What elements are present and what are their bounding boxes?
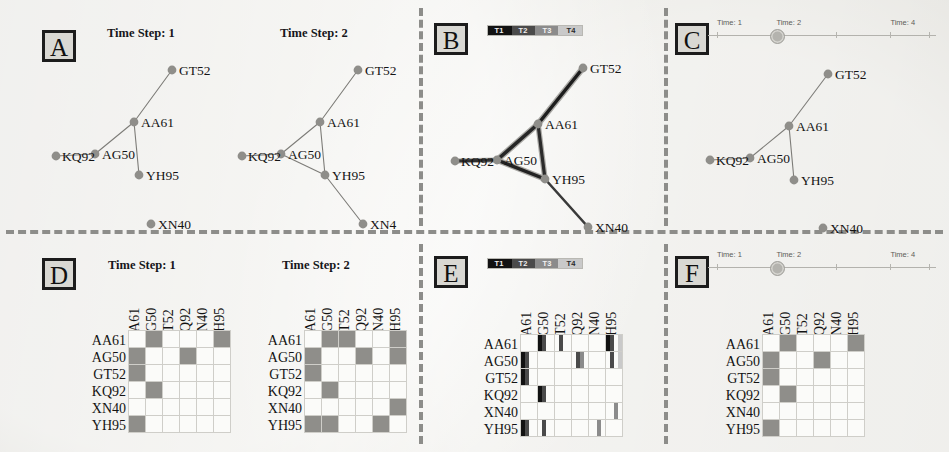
matrix-cell-KQ92-XN40[interactable] [373, 382, 390, 399]
matrix-cell-YH95-YH95[interactable] [848, 420, 865, 437]
matrix-cell-KQ92-AG50[interactable] [146, 382, 163, 399]
matrix-cell-AG50-AG50[interactable] [322, 348, 339, 365]
matrix-cell-XN40-XN40[interactable] [197, 399, 214, 416]
matrix-cell-GT52-YH95[interactable] [214, 365, 231, 382]
matrix-cell-KQ92-AA61[interactable] [305, 382, 322, 399]
matrix-cell-KQ92-GT52[interactable] [555, 386, 572, 403]
matrix-cell-AG50-YH95[interactable] [606, 352, 623, 369]
matrix-cell-KQ92-AG50[interactable] [780, 386, 797, 403]
matrix-cell-GT52-GT52[interactable] [339, 365, 356, 382]
node-AA61[interactable] [534, 120, 543, 129]
matrix-cell-AG50-KQ92[interactable] [572, 352, 589, 369]
node-XN40[interactable] [584, 223, 593, 232]
matrix-cell-YH95-AG50[interactable] [322, 416, 339, 433]
matrix-cell-YH95-YH95[interactable] [214, 416, 231, 433]
node-YH95[interactable] [321, 171, 330, 180]
matrix-cell-AA61-YH95[interactable] [848, 335, 865, 352]
matrix-cell-XN40-AG50[interactable] [780, 403, 797, 420]
time-slider-c[interactable]: Time: 1Time: 2Time: 4 [708, 18, 936, 46]
matrix-cell-KQ92-GT52[interactable] [163, 382, 180, 399]
matrix-cell-AG50-YH95[interactable] [848, 352, 865, 369]
matrix-cell-AG50-AA61[interactable] [763, 352, 780, 369]
network-timestep2[interactable]: GT52AA61AG50KQ92YH95XN4 [232, 48, 407, 243]
matrix-cell-GT52-AA61[interactable] [763, 369, 780, 386]
matrix-superimposed[interactable]: AA61AG50GT52KQ92XN40YH95AA61AG50GT52KQ92… [470, 280, 630, 448]
matrix-cell-GT52-XN40[interactable] [831, 369, 848, 386]
matrix-cell-GT52-GT52[interactable] [555, 369, 572, 386]
matrix-cell-GT52-AG50[interactable] [322, 365, 339, 382]
matrix-cell-AG50-YH95[interactable] [390, 348, 407, 365]
matrix-cell-AA61-YH95[interactable] [606, 335, 623, 352]
matrix-cell-AG50-KQ92[interactable] [180, 348, 197, 365]
node-KQ92[interactable] [706, 156, 715, 165]
matrix-cell-XN40-AA61[interactable] [521, 403, 538, 420]
matrix-cell-YH95-XN40[interactable] [197, 416, 214, 433]
matrix-cell-GT52-AA61[interactable] [129, 365, 146, 382]
matrix-cell-AA61-XN40[interactable] [589, 335, 606, 352]
matrix-cell-AA61-XN40[interactable] [373, 331, 390, 348]
matrix-cell-XN40-YH95[interactable] [390, 399, 407, 416]
matrix-cell-KQ92-AG50[interactable] [322, 382, 339, 399]
matrix-cell-KQ92-XN40[interactable] [589, 386, 606, 403]
matrix-cell-AG50-GT52[interactable] [339, 348, 356, 365]
matrix-cell-AA61-AG50[interactable] [538, 335, 555, 352]
matrix-cell-AG50-XN40[interactable] [831, 352, 848, 369]
matrix-cell-GT52-GT52[interactable] [797, 369, 814, 386]
matrix-cell-KQ92-YH95[interactable] [390, 382, 407, 399]
matrix-cell-YH95-AA61[interactable] [129, 416, 146, 433]
matrix-cell-GT52-AA61[interactable] [305, 365, 322, 382]
matrix-cell-AG50-XN40[interactable] [373, 348, 390, 365]
matrix-cell-KQ92-KQ92[interactable] [356, 382, 373, 399]
matrix-cell-XN40-AG50[interactable] [322, 399, 339, 416]
matrix-timestep2[interactable]: AA61AG50GT52KQ92XN40YH95AA61AG50GT52KQ92… [254, 276, 414, 446]
matrix-cell-AG50-AG50[interactable] [146, 348, 163, 365]
matrix-cell-GT52-YH95[interactable] [606, 369, 623, 386]
matrix-cell-XN40-AG50[interactable] [538, 403, 555, 420]
node-KQ92[interactable] [52, 152, 61, 161]
matrix-cell-KQ92-KQ92[interactable] [180, 382, 197, 399]
node-YH95[interactable] [541, 175, 550, 184]
matrix-cell-KQ92-AA61[interactable] [763, 386, 780, 403]
node-XN4[interactable] [359, 220, 368, 229]
matrix-cell-XN40-KQ92[interactable] [180, 399, 197, 416]
node-KQ92[interactable] [238, 152, 247, 161]
matrix-cell-GT52-KQ92[interactable] [180, 365, 197, 382]
matrix-cell-AG50-AA61[interactable] [305, 348, 322, 365]
matrix-cell-YH95-YH95[interactable] [390, 416, 407, 433]
matrix-cell-GT52-XN40[interactable] [589, 369, 606, 386]
matrix-timestep1[interactable]: AA61AG50GT52KQ92XN40YH95AA61AG50GT52KQ92… [78, 276, 238, 446]
matrix-cell-GT52-AA61[interactable] [521, 369, 538, 386]
matrix-cell-AG50-YH95[interactable] [214, 348, 231, 365]
matrix-cell-AA61-KQ92[interactable] [814, 335, 831, 352]
matrix-cell-KQ92-YH95[interactable] [606, 386, 623, 403]
node-AA61[interactable] [785, 122, 794, 131]
matrix-cell-GT52-AG50[interactable] [146, 365, 163, 382]
matrix-cell-KQ92-AA61[interactable] [129, 382, 146, 399]
matrix-cell-XN40-YH95[interactable] [606, 403, 623, 420]
matrix-cell-AA61-YH95[interactable] [214, 331, 231, 348]
matrix-cell-GT52-YH95[interactable] [390, 365, 407, 382]
matrix-cell-AG50-AA61[interactable] [129, 348, 146, 365]
network-animation[interactable]: GT52AA61AG50KQ92YH95XN40 [700, 50, 900, 245]
matrix-cell-KQ92-GT52[interactable] [797, 386, 814, 403]
matrix-cell-AA61-AA61[interactable] [129, 331, 146, 348]
matrix-cell-AA61-GT52[interactable] [163, 331, 180, 348]
matrix-cell-XN40-GT52[interactable] [163, 399, 180, 416]
node-YH95[interactable] [790, 176, 799, 185]
matrix-cell-GT52-AG50[interactable] [780, 369, 797, 386]
matrix-cell-XN40-KQ92[interactable] [572, 403, 589, 420]
matrix-cell-KQ92-XN40[interactable] [197, 382, 214, 399]
matrix-cell-XN40-YH95[interactable] [848, 403, 865, 420]
matrix-cell-XN40-GT52[interactable] [339, 399, 356, 416]
slider-knob[interactable] [770, 29, 785, 44]
matrix-cell-AA61-AG50[interactable] [146, 331, 163, 348]
matrix-cell-AA61-AG50[interactable] [322, 331, 339, 348]
matrix-cell-AG50-GT52[interactable] [555, 352, 572, 369]
matrix-cell-AG50-XN40[interactable] [589, 352, 606, 369]
matrix-cell-XN40-KQ92[interactable] [814, 403, 831, 420]
matrix-cell-GT52-KQ92[interactable] [572, 369, 589, 386]
matrix-cell-GT52-KQ92[interactable] [356, 365, 373, 382]
matrix-cell-XN40-XN40[interactable] [831, 403, 848, 420]
matrix-cell-GT52-XN40[interactable] [197, 365, 214, 382]
matrix-cell-YH95-XN40[interactable] [589, 420, 606, 437]
